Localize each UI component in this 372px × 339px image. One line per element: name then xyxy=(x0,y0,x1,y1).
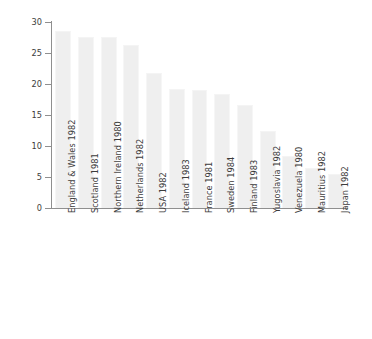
x-axis-label: France 1981 xyxy=(204,162,214,213)
x-axis-label: Venezuela 1980 xyxy=(294,147,304,213)
bar-chart: Mortality rate/100 000 women 05101520253… xyxy=(0,0,372,339)
x-axis-label: Scotland 1981 xyxy=(90,153,100,213)
y-tick-label: 0 xyxy=(0,204,42,212)
y-axis-line xyxy=(51,21,52,209)
x-axis-label: Iceland 1983 xyxy=(181,159,191,213)
x-axis-label: Yugoslavia 1982 xyxy=(272,146,282,213)
y-tick-label: 5 xyxy=(0,173,42,181)
y-tick-label: 30 xyxy=(0,18,42,26)
y-tick-label: 15 xyxy=(0,111,42,119)
y-tick-mark xyxy=(45,177,51,178)
y-tick-label: 20 xyxy=(0,80,42,88)
y-tick-mark xyxy=(45,146,51,147)
x-axis-label: Japan 1982 xyxy=(340,166,350,213)
y-tick-label: 25 xyxy=(0,49,42,57)
y-tick-mark xyxy=(45,115,51,116)
x-axis-label: Finland 1983 xyxy=(249,160,259,213)
x-axis-label: USA 1982 xyxy=(158,172,168,213)
y-tick-label: 10 xyxy=(0,142,42,150)
x-axis-label: Northern Ireland 1980 xyxy=(113,121,123,213)
x-axis-label: Sweden 1984 xyxy=(226,157,236,213)
y-tick-mark xyxy=(45,84,51,85)
x-axis-label: Netherlands 1982 xyxy=(135,139,145,213)
y-tick-mark xyxy=(45,53,51,54)
y-tick-mark xyxy=(45,208,51,209)
y-tick-mark xyxy=(45,22,51,23)
x-axis-label: Mauritius 1982 xyxy=(317,151,327,213)
x-axis-label: England & Wales 1982 xyxy=(67,120,77,213)
